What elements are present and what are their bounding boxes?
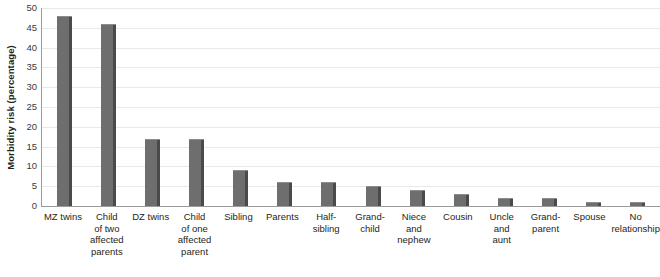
x-axis-label-line: DZ twins	[129, 211, 173, 223]
bar-slot	[483, 8, 527, 206]
x-axis-label: Grand-parent	[524, 208, 568, 277]
x-axis-label-line: Sibling	[217, 211, 261, 223]
y-tick-label: 20	[26, 122, 37, 132]
bar-top-edge	[410, 190, 425, 191]
bar-slot	[174, 8, 218, 206]
bar[interactable]	[454, 194, 469, 206]
x-axis-label-line: aunt	[480, 234, 524, 246]
chart-axes	[41, 8, 660, 207]
bar-shade	[69, 16, 72, 206]
x-axis-label-line: Grand-	[524, 211, 568, 223]
x-axis-label-line: of two	[85, 223, 129, 235]
x-axis-label-line: child	[348, 223, 392, 235]
bar-slot	[42, 8, 86, 206]
plot-area: 50454035302520151050	[20, 8, 660, 215]
bar[interactable]	[189, 139, 204, 206]
x-axis-label: Grand-child	[348, 208, 392, 277]
bar-shade	[201, 139, 204, 206]
x-axis-label-line: Child	[173, 211, 217, 223]
x-axis-label: Parents	[260, 208, 304, 277]
bar-shade	[289, 182, 292, 206]
bar[interactable]	[630, 202, 645, 206]
x-axis-label-line: of one	[173, 223, 217, 235]
bar-shade	[157, 139, 160, 206]
bar[interactable]	[57, 16, 72, 206]
x-axis-label-line: and	[480, 223, 524, 235]
y-tick-label: 25	[26, 102, 37, 112]
x-axis-label-line: affected	[173, 234, 217, 246]
bar-slot	[86, 8, 130, 206]
bar-shade	[510, 198, 513, 206]
x-axis-label: Spouse	[568, 208, 612, 277]
y-tick-label: 35	[26, 62, 37, 72]
bar-slot	[616, 8, 660, 206]
bar-slot	[219, 8, 263, 206]
bar[interactable]	[101, 24, 116, 206]
bar-shade	[113, 24, 116, 206]
bar[interactable]	[145, 139, 160, 206]
x-axis-label-line: parent	[173, 246, 217, 258]
bar[interactable]	[366, 186, 381, 206]
x-axis-label-line: Grand-	[348, 211, 392, 223]
x-axis-label-line: affected	[85, 234, 129, 246]
x-axis-label: DZ twins	[129, 208, 173, 277]
bar[interactable]	[233, 170, 248, 206]
bar-top-edge	[145, 139, 160, 140]
x-axis-label-line: Half-	[304, 211, 348, 223]
x-axis-label: Sibling	[217, 208, 261, 277]
y-axis-title-text: Morbidity risk (percentage)	[5, 45, 16, 170]
bar-top-edge	[586, 202, 601, 203]
bar[interactable]	[410, 190, 425, 206]
x-axis-label-line: Parents	[260, 211, 304, 223]
bar-shade	[554, 198, 557, 206]
bar-shade	[245, 170, 248, 206]
morbidity-risk-bar-chart: Morbidity risk (percentage) 504540353025…	[0, 0, 660, 277]
x-axis-label: Half-sibling	[304, 208, 348, 277]
bar-shade	[422, 190, 425, 206]
bar-top-edge	[277, 182, 292, 183]
y-tick-label: 50	[26, 3, 37, 13]
bar-shade	[378, 186, 381, 206]
bar-slot	[307, 8, 351, 206]
bar[interactable]	[542, 198, 557, 206]
x-axis-label-line: No	[611, 211, 660, 223]
bar-top-edge	[321, 182, 336, 183]
y-tick-label: 5	[32, 181, 37, 191]
bar[interactable]	[277, 182, 292, 206]
bar-shade	[466, 194, 469, 206]
x-axis-label: Uncleandaunt	[480, 208, 524, 277]
x-axis-label-line: MZ twins	[41, 211, 85, 223]
bar-slot	[528, 8, 572, 206]
bar[interactable]	[586, 202, 601, 206]
bar-slot	[263, 8, 307, 206]
bar-slot	[395, 8, 439, 206]
x-axis-label-line: parent	[524, 223, 568, 235]
x-axis-label: Cousin	[436, 208, 480, 277]
bar-top-edge	[498, 198, 513, 199]
x-axis-label: Norelationship	[611, 208, 660, 277]
x-axis-category-labels: MZ twinsChildof twoaffectedparentsDZ twi…	[41, 208, 660, 277]
bar-top-edge	[101, 24, 116, 25]
x-axis-label: MZ twins	[41, 208, 85, 277]
y-tick-label: 0	[32, 201, 37, 211]
bar-slot	[439, 8, 483, 206]
bar-slot	[351, 8, 395, 206]
x-axis-label-line: Uncle	[480, 211, 524, 223]
y-tick-label: 10	[26, 161, 37, 171]
y-tick-label: 15	[26, 142, 37, 152]
x-axis-label-line: Spouse	[568, 211, 612, 223]
x-axis-label: Childof twoaffectedparents	[85, 208, 129, 277]
bar[interactable]	[321, 182, 336, 206]
bar-shade	[333, 182, 336, 206]
bar[interactable]	[498, 198, 513, 206]
bar-slot	[572, 8, 616, 206]
bar-top-edge	[233, 170, 248, 171]
bar-top-edge	[366, 186, 381, 187]
y-axis-title: Morbidity risk (percentage)	[0, 0, 20, 215]
x-axis-label-line: parents	[85, 246, 129, 258]
y-tick-label: 30	[26, 82, 37, 92]
bar-series	[42, 8, 660, 206]
bar-top-edge	[630, 202, 645, 203]
x-axis-label-line: Child	[85, 211, 129, 223]
y-tick-label: 45	[26, 23, 37, 33]
